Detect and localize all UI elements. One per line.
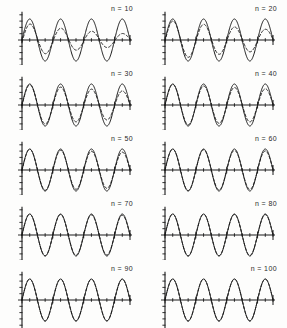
- panel-label: n = 90: [111, 265, 133, 272]
- chart-panel: n = 20: [143, 0, 287, 65]
- chart-panel: n = 30: [0, 65, 143, 130]
- panel-label: n = 30: [111, 70, 133, 77]
- chart-panel: n = 40: [143, 65, 287, 130]
- panel-label: n = 80: [255, 200, 277, 207]
- panel-label: n = 20: [255, 5, 277, 12]
- panel-label: n = 100: [251, 265, 277, 272]
- panel-label: n = 50: [111, 135, 133, 142]
- chart-panel: n = 100: [143, 260, 287, 328]
- panel-label: n = 10: [111, 5, 133, 12]
- chart-panel: n = 90: [0, 260, 143, 328]
- panel-label: n = 40: [255, 70, 277, 77]
- figure-canvas: n = 10n = 20n = 30n = 40n = 50n = 60n = …: [0, 0, 287, 328]
- chart-panel: n = 70: [0, 195, 143, 260]
- panel-label: n = 60: [255, 135, 277, 142]
- chart-panel: n = 60: [143, 130, 287, 195]
- panel-label: n = 70: [111, 200, 133, 207]
- chart-panel: n = 80: [143, 195, 287, 260]
- chart-panel: n = 10: [0, 0, 143, 65]
- chart-panel: n = 50: [0, 130, 143, 195]
- panel-grid: n = 10n = 20n = 30n = 40n = 50n = 60n = …: [0, 0, 287, 328]
